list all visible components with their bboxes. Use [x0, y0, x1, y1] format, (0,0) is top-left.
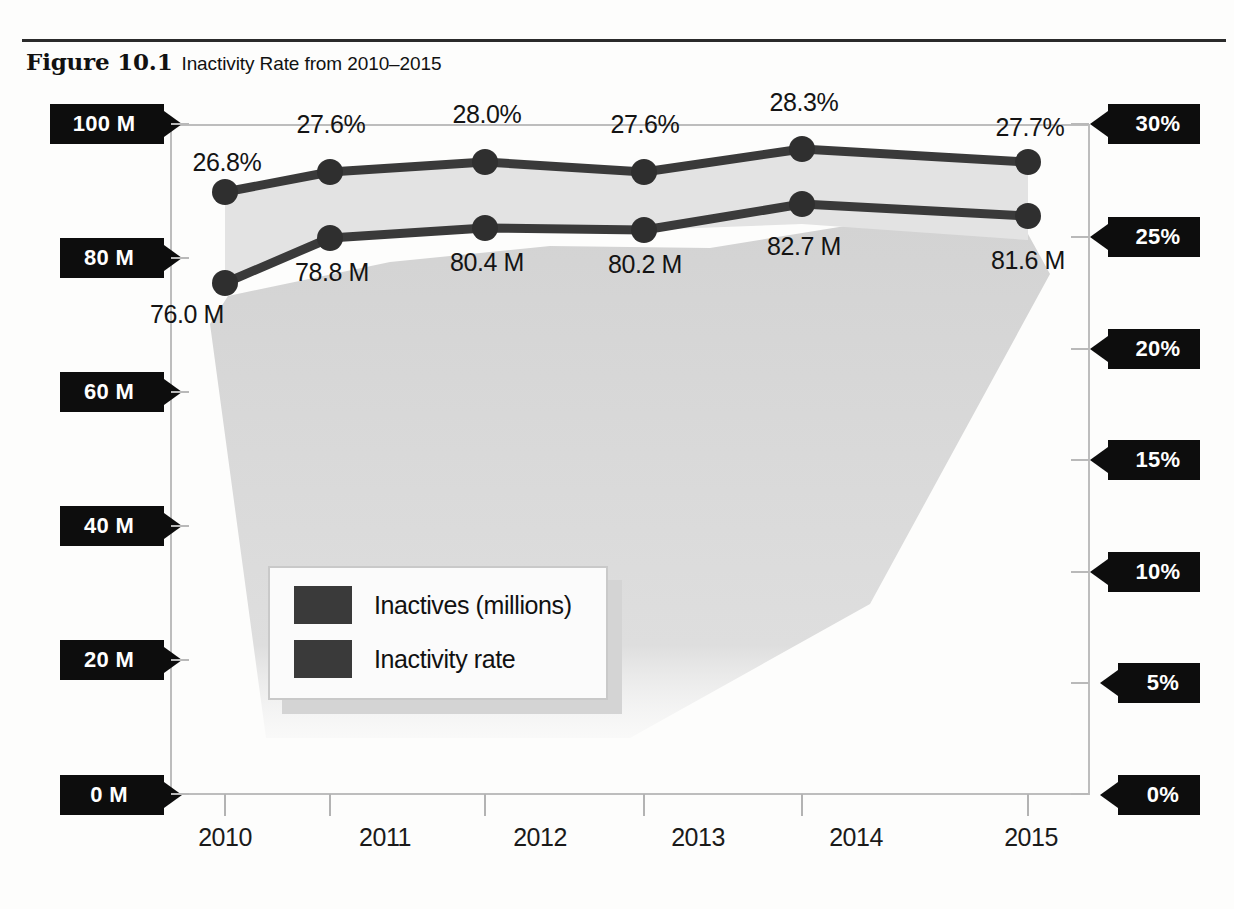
y2-axis-tick-label-0pct: 0% [1118, 775, 1200, 815]
y-tick-mark [171, 659, 189, 661]
inactives-marker [212, 270, 238, 296]
y2-axis-tick-label-10pct: 10% [1108, 552, 1200, 592]
legend-swatch-icon [294, 586, 352, 624]
x-axis-label-2010: 2010 [170, 823, 280, 852]
rate-marker [789, 136, 815, 162]
data-label-rate-2010: 26.8% [152, 148, 302, 177]
y-axis-tick-label-100m: 100 M [50, 104, 164, 144]
x-tick-mark [1027, 794, 1029, 816]
x-tick-mark [643, 794, 645, 816]
inactives-marker [631, 217, 657, 243]
y-axis-tick-label-40m: 40 M [60, 506, 164, 546]
legend-item-rate: Inactivity rate [294, 640, 515, 678]
data-label-rate-2013: 27.6% [570, 110, 720, 139]
y2-tick-mark [1071, 793, 1089, 795]
rate-marker [472, 149, 498, 175]
data-label-inactives-2013: 80.2 M [570, 250, 720, 279]
y-tick-mark [171, 257, 189, 259]
inactives-marker [317, 225, 343, 251]
y2-axis-tick-label-25pct: 25% [1108, 217, 1200, 257]
x-tick-mark [484, 794, 486, 816]
data-label-inactives-2012: 80.4 M [412, 248, 562, 277]
rate-marker [212, 179, 238, 205]
x-tick-mark [224, 794, 226, 816]
data-label-rate-2014: 28.3% [729, 88, 879, 117]
x-tick-mark [801, 794, 803, 816]
data-label-rate-2011: 27.6% [256, 110, 406, 139]
y-tick-mark [171, 525, 189, 527]
inactives-marker [789, 191, 815, 217]
legend-item-inactives: Inactives (millions) [294, 586, 572, 624]
y2-tick-mark [1071, 682, 1089, 684]
x-axis-label-2015: 2015 [976, 823, 1086, 852]
x-axis-label-2013: 2013 [643, 823, 753, 852]
data-label-inactives-2015: 81.6 M [953, 246, 1103, 275]
data-label-rate-2015: 27.7% [955, 113, 1105, 142]
data-label-inactives-2011: 78.8 M [257, 258, 407, 287]
legend-label-inactives: Inactives (millions) [374, 591, 572, 620]
y-axis-tick-label-60m: 60 M [60, 372, 164, 412]
y2-axis-tick-label-30pct: 30% [1108, 104, 1200, 144]
y2-tick-mark [1071, 459, 1089, 461]
data-label-rate-2012: 28.0% [412, 100, 562, 129]
y2-axis-tick-label-20pct: 20% [1108, 329, 1200, 369]
y-axis-tick-label-0m: 0 M [60, 775, 164, 815]
x-axis-label-2014: 2014 [801, 823, 911, 852]
rate-marker [631, 159, 657, 185]
x-tick-mark [329, 794, 331, 816]
y-tick-mark [171, 793, 189, 795]
y2-tick-mark [1071, 348, 1089, 350]
legend-label-rate: Inactivity rate [374, 645, 515, 674]
x-axis-label-2011: 2011 [330, 823, 440, 852]
data-label-inactives-2010: 76.0 M [112, 300, 262, 329]
data-label-inactives-2014: 82.7 M [729, 232, 879, 261]
y2-axis-tick-label-5pct: 5% [1118, 663, 1200, 703]
y-axis-tick-label-20m: 20 M [60, 640, 164, 680]
x-axis-label-2012: 2012 [485, 823, 595, 852]
rate-marker [1015, 149, 1041, 175]
y2-tick-mark [1071, 236, 1089, 238]
y-tick-mark [171, 391, 189, 393]
chart-legend: Inactives (millions) Inactivity rate [268, 566, 608, 700]
y2-tick-mark [1071, 571, 1089, 573]
legend-swatch-icon [294, 640, 352, 678]
inactives-marker [1015, 203, 1041, 229]
y-axis-tick-label-80m: 80 M [60, 238, 164, 278]
chart-container: 100 M 80 M 60 M 40 M 20 M 0 M 30% 25% 20… [0, 0, 1234, 909]
rate-marker [317, 159, 343, 185]
y-tick-mark [171, 123, 189, 125]
y2-axis-tick-label-15pct: 15% [1108, 440, 1200, 480]
inactives-marker [472, 215, 498, 241]
